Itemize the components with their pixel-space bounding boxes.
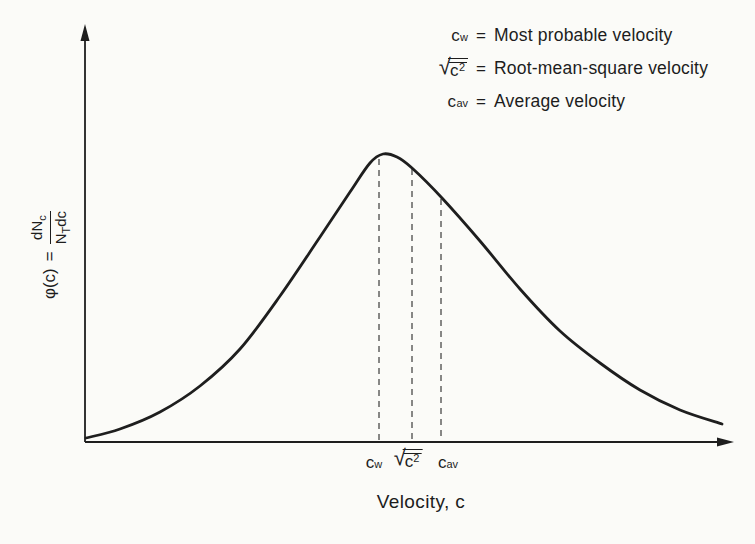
legend-item-most-probable: cw = Most probable velocity [418,25,708,46]
legend-text: Most probable velocity [494,25,673,46]
maxwell-distribution-figure: φ(c) = dNc NTdc cw = Most probable veloc… [0,0,755,544]
fraction-numerator: dNc [28,211,51,244]
fraction-denominator: NTdc [51,211,73,244]
y-axis-fraction: dNc NTdc [28,211,72,244]
equals-sign: = [40,251,60,261]
y-axis-arrowhead [81,24,90,41]
sqrt-expression: √ c2 [439,58,468,79]
legend: cw = Most probable velocity √ c2 = Root-… [418,25,708,124]
equals-sign: = [468,26,494,46]
legend-item-rms: √ c2 = Root-mean-square velocity [418,58,708,79]
symbol-cav: cav [418,92,468,112]
equals-sign: = [468,59,494,79]
x-axis-arrowhead [717,438,734,447]
x-tick-cw: cw [366,453,382,473]
legend-text: Root-mean-square velocity [494,58,708,79]
symbol-rms: √ c2 [418,58,468,79]
y-axis-label: φ(c) = dNc NTdc [23,189,77,321]
legend-item-average: cav = Average velocity [418,91,708,112]
distribution-curve [86,154,722,438]
x-axis-title: Velocity, c [377,491,466,513]
x-tick-cav: cav [438,453,458,473]
equals-sign: = [468,92,494,112]
legend-text: Average velocity [494,91,625,112]
phi-symbol: φ(c) [40,268,60,299]
x-tick-rms: √ c2 [394,449,423,470]
symbol-cw: cw [418,26,468,46]
sqrt-expression: √ c2 [394,449,423,470]
